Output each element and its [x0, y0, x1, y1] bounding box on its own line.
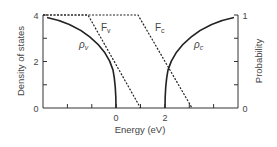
chart: Fv Fc ρv ρc 4 2 0 1 0 0 2 Energy (eV) De…	[0, 0, 277, 147]
axes	[43, 15, 238, 108]
rho-c-label: ρc	[193, 39, 204, 51]
fv-label: Fv	[101, 22, 111, 34]
y-tick-2: 2	[33, 57, 38, 67]
y2-axis-label: Probability	[253, 39, 264, 84]
y-tick-4: 4	[33, 11, 38, 21]
fc-label: Fc	[155, 22, 165, 34]
rho-v-label: ρv	[78, 39, 89, 51]
x-axis-label: Energy (eV)	[115, 124, 166, 135]
y2-tick-0: 0	[242, 104, 247, 114]
rho-c-curve	[165, 18, 234, 109]
y2-tick-1: 1	[242, 11, 247, 21]
x-tick-0: 0	[113, 113, 118, 123]
fc-curve	[43, 15, 192, 108]
y-tick-0: 0	[33, 104, 38, 114]
x-tick-2: 2	[162, 113, 167, 123]
y-axis-label: Density of states	[15, 26, 26, 96]
fv-curve	[43, 15, 141, 108]
